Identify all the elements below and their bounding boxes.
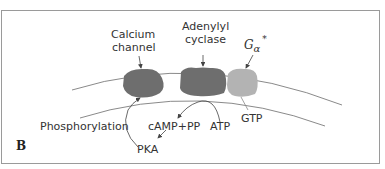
adenylyl-cyclase-label-line1: Adenylyl — [182, 20, 229, 33]
g-alpha-shape — [227, 69, 258, 97]
gtp-label: GTP — [241, 112, 263, 125]
g-alpha-label: Gα* — [244, 34, 267, 54]
gtp-line — [241, 97, 248, 110]
panel-label: B — [16, 139, 26, 153]
signaling-diagram: Calcium channel Adenylyl cyclase Gα* Pho… — [0, 0, 385, 169]
calcium-channel-label-line2: channel — [112, 41, 156, 54]
atp-to-camp-arrow — [178, 101, 220, 122]
atp-label: ATP — [210, 120, 230, 133]
adenylyl-cyclase-label-line2: cyclase — [185, 33, 226, 46]
phosphorylation-label: Phosphorylation — [40, 120, 129, 133]
calcium-channel-pointer — [139, 56, 141, 68]
calcium-channel-shape — [123, 69, 164, 98]
pka-label: PKA — [137, 143, 159, 156]
g-alpha-pointer — [246, 55, 253, 68]
adenylyl-cyclase-shape — [180, 68, 226, 97]
calcium-channel-label-line1: Calcium — [111, 28, 155, 41]
camp-pp-label: cAMP+PP — [148, 120, 201, 133]
